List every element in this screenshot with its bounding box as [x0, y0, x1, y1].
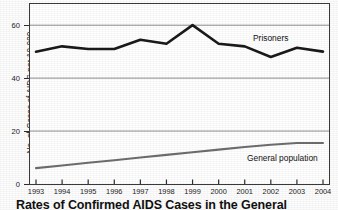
y-tick-label: 60	[0, 21, 20, 30]
x-tick-label: 1996	[106, 187, 122, 196]
x-tick-label: 1995	[80, 187, 96, 196]
x-tick-label: 2001	[236, 187, 252, 196]
x-tick-label: 2004	[315, 187, 331, 196]
y-tick-mark	[24, 78, 29, 79]
figure-caption: Rates of Confirmed AIDS Cases in the Gen…	[16, 199, 338, 210]
series-label-general-population: General population	[247, 153, 318, 163]
x-tick-label: 1994	[54, 187, 70, 196]
x-tick-label: 1998	[158, 187, 174, 196]
x-tick-label: 1997	[132, 187, 148, 196]
chart-figure: No. of Cases of AIDS per 10,000 0204060 …	[0, 0, 338, 210]
x-tick-label: 2003	[289, 187, 305, 196]
y-tick-label: 20	[0, 127, 20, 136]
x-tick-label: 2002	[263, 187, 279, 196]
y-tick-mark	[24, 131, 29, 132]
y-tick-mark	[24, 25, 29, 26]
y-tick-mark	[24, 184, 29, 185]
series-label-prisoners: Prisoners	[253, 33, 288, 43]
x-axis-ticks	[36, 180, 323, 185]
data-series	[36, 25, 323, 168]
y-tick-label: 40	[0, 74, 20, 83]
x-tick-label: 1999	[184, 187, 200, 196]
x-tick-label: 2000	[210, 187, 226, 196]
y-tick-label: 0	[0, 180, 20, 189]
x-tick-label: 1993	[28, 187, 44, 196]
